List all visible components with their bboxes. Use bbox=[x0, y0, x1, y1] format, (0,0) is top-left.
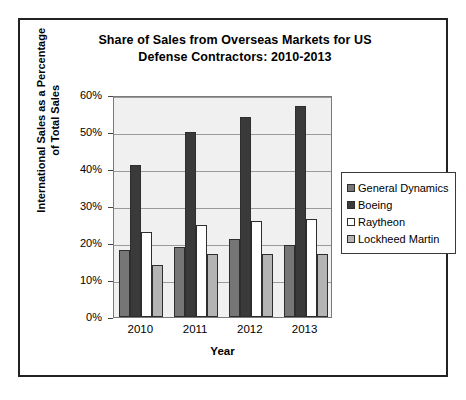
y-axis-title-line-2: of Total Sales bbox=[48, 17, 62, 223]
chart-title: Share of Sales from Overseas Markets for… bbox=[38, 32, 432, 66]
bars-layer bbox=[114, 97, 331, 317]
bar-group-2011 bbox=[174, 97, 218, 317]
legend-label: Boeing bbox=[358, 199, 392, 211]
bar bbox=[262, 254, 273, 317]
bar bbox=[317, 254, 328, 317]
legend-swatch bbox=[347, 201, 355, 209]
bar bbox=[174, 247, 185, 317]
chart-figure: Share of Sales from Overseas Markets for… bbox=[18, 18, 448, 377]
bar bbox=[119, 250, 130, 317]
chart-legend: General DynamicsBoeingRaytheonLockheed M… bbox=[341, 172, 456, 254]
legend-label: Raytheon bbox=[358, 216, 405, 228]
y-axis-title: International Sales as a Percentage of T… bbox=[34, 17, 63, 223]
bar bbox=[130, 165, 141, 317]
bar bbox=[152, 265, 163, 317]
legend-label: General Dynamics bbox=[358, 182, 448, 194]
legend-label: Lockheed Martin bbox=[358, 233, 439, 245]
legend-item: General Dynamics bbox=[347, 179, 448, 196]
legend-item: Raytheon bbox=[347, 213, 448, 230]
y-axis-tick-label: 60% bbox=[56, 90, 102, 101]
y-axis-tick-label: 50% bbox=[56, 127, 102, 138]
bar bbox=[229, 239, 240, 317]
x-axis-title: Year bbox=[113, 345, 332, 357]
y-axis-tick-label: 0% bbox=[56, 312, 102, 323]
bar bbox=[141, 232, 152, 317]
x-axis-tick-label: 2010 bbox=[113, 323, 168, 335]
x-axis-tick-label: 2011 bbox=[168, 323, 223, 335]
y-axis-title-line-1: International Sales as a Percentage bbox=[34, 17, 48, 223]
bar bbox=[251, 221, 262, 317]
bar-group-2010 bbox=[119, 97, 163, 317]
legend-swatch bbox=[347, 184, 355, 192]
chart-title-line-1: Share of Sales from Overseas Markets for… bbox=[38, 32, 432, 49]
y-axis-tick-label: 20% bbox=[56, 238, 102, 249]
y-axis-tick-mark bbox=[108, 318, 113, 319]
bar bbox=[306, 219, 317, 317]
legend-swatch bbox=[347, 235, 355, 243]
bar bbox=[295, 106, 306, 317]
bar bbox=[240, 117, 251, 317]
x-axis-tick-label: 2012 bbox=[222, 323, 277, 335]
chart-title-line-2: Defense Contractors: 2010-2013 bbox=[38, 49, 432, 66]
bar bbox=[185, 132, 196, 317]
bar bbox=[207, 254, 218, 317]
legend-item: Boeing bbox=[347, 196, 448, 213]
bar-group-2012 bbox=[229, 97, 273, 317]
bar bbox=[284, 245, 295, 317]
legend-swatch bbox=[347, 218, 355, 226]
y-axis-tick-label: 30% bbox=[56, 201, 102, 212]
y-axis-tick-label: 40% bbox=[56, 164, 102, 175]
plot-area bbox=[113, 96, 332, 318]
bar-group-2013 bbox=[284, 97, 328, 317]
bar bbox=[196, 225, 207, 318]
x-axis-tick-label: 2013 bbox=[277, 323, 332, 335]
legend-item: Lockheed Martin bbox=[347, 230, 448, 247]
y-axis-tick-label: 10% bbox=[56, 275, 102, 286]
